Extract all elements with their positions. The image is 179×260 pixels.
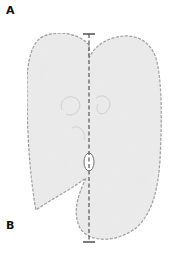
cord-insertion-oval: [84, 153, 94, 171]
organ-shape: [27, 33, 161, 239]
organ-outline-diagram: [0, 0, 179, 260]
